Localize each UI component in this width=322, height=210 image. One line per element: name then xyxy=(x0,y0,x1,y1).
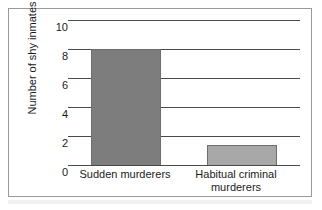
y-tick-label-4: 4 xyxy=(44,108,68,120)
page-edge-shadow xyxy=(8,200,312,204)
figure-root: Number of shy inmates 10 8 6 4 2 0 Sudde… xyxy=(0,0,322,210)
x-category-label-line: Habitual criminal xyxy=(180,168,292,181)
y-axis-tick-labels: 10 8 6 4 2 0 xyxy=(44,20,68,165)
y-tick-label-10: 10 xyxy=(44,21,68,33)
y-axis-title: Number of shy inmates xyxy=(26,0,38,118)
x-category-label-sudden-murderers: Sudden murderers xyxy=(66,168,184,181)
y-tick-label-0: 0 xyxy=(44,166,68,178)
x-category-label-habitual-criminal-murderers: Habitual criminal murderers xyxy=(180,168,292,194)
x-axis-baseline xyxy=(68,165,300,166)
x-category-label-line: Sudden murderers xyxy=(66,168,184,181)
plot-area xyxy=(68,20,300,165)
bar-sudden-murderers[interactable] xyxy=(91,49,161,165)
x-category-label-line: murderers xyxy=(180,181,292,194)
bar-habitual-criminal-murderers[interactable] xyxy=(207,145,277,165)
gridline-10 xyxy=(68,20,300,21)
y-tick-label-2: 2 xyxy=(44,137,68,149)
y-tick-label-8: 8 xyxy=(44,50,68,62)
y-tick-label-6: 6 xyxy=(44,79,68,91)
